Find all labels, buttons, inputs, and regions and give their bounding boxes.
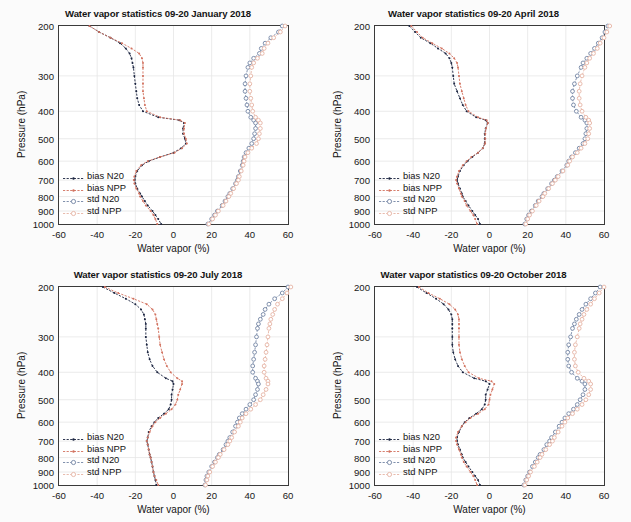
legend-swatch-icon — [379, 431, 400, 442]
y-tick-label: 400 — [38, 367, 54, 378]
series-std-npp — [523, 285, 606, 487]
legend-label: bias NPP — [87, 182, 126, 193]
y-tick-label: 300 — [38, 331, 54, 342]
series-std-n20 — [523, 24, 610, 226]
y-tick-label: 900 — [38, 206, 54, 217]
x-tick-label: -60 — [368, 229, 382, 240]
legend: bias N20bias NPPstd N20std NPP — [379, 170, 442, 216]
y-tick-label: 200 — [354, 21, 370, 32]
y-tick-label: 400 — [354, 367, 370, 378]
x-tick-label: 60 — [599, 490, 610, 501]
chart-panel: Water vapor statistics 09-20 October 201… — [316, 261, 631, 522]
x-tick-label: 60 — [599, 229, 610, 240]
legend-item: bias NPP — [63, 442, 126, 454]
legend-label: bias N20 — [403, 170, 440, 181]
chart-panel: Water vapor statistics 09-20 January 201… — [0, 0, 316, 261]
x-tick-label: 40 — [244, 229, 255, 240]
y-tick-label: 1000 — [33, 480, 54, 491]
x-axis-title: Water vapor (%) — [374, 243, 605, 254]
legend-item: bias N20 — [63, 431, 126, 443]
legend-label: std N20 — [87, 454, 119, 465]
x-tick-label: 20 — [206, 490, 217, 501]
series-std-npp — [207, 24, 287, 226]
legend-item: bias NPP — [63, 181, 126, 193]
x-tick-label: -20 — [128, 490, 142, 501]
legend-item: std N20 — [379, 193, 442, 205]
y-tick-label: 500 — [354, 133, 370, 144]
y-tick-label: 700 — [354, 175, 370, 186]
legend-swatch-icon — [63, 205, 84, 216]
legend: bias N20bias NPPstd N20std NPP — [63, 431, 126, 477]
y-tick-label: 700 — [38, 175, 54, 186]
x-tick-label: -40 — [406, 229, 420, 240]
legend-label: std NPP — [87, 205, 121, 216]
y-tick-label: 300 — [38, 70, 54, 81]
y-tick-label: 600 — [38, 156, 54, 167]
legend: bias N20bias NPPstd N20std NPP — [379, 431, 442, 477]
legend-item: bias NPP — [379, 442, 442, 454]
legend-label: std NPP — [403, 466, 437, 477]
legend-item: std NPP — [63, 204, 126, 216]
y-tick-label: 800 — [38, 452, 54, 463]
x-axis-title: Water vapor (%) — [58, 504, 289, 515]
legend-swatch-icon — [379, 443, 400, 454]
y-tick-label: 600 — [354, 156, 370, 167]
legend-swatch-icon — [379, 182, 400, 193]
legend-label: bias NPP — [87, 443, 126, 454]
legend-swatch-icon — [379, 454, 400, 465]
legend-item: bias N20 — [379, 431, 442, 443]
x-tick-label: -60 — [368, 490, 382, 501]
y-axis-title: Pressure (hPa) — [16, 352, 27, 419]
y-tick-label: 600 — [354, 417, 370, 428]
x-axis-title: Water vapor (%) — [374, 504, 605, 515]
y-tick-label: 300 — [354, 331, 370, 342]
x-tick-label: -60 — [52, 229, 66, 240]
legend-label: std NPP — [87, 466, 121, 477]
y-tick-label: 300 — [354, 70, 370, 81]
x-tick-label: -40 — [90, 490, 104, 501]
x-tick-label: 60 — [283, 490, 294, 501]
legend-label: bias N20 — [403, 431, 440, 442]
x-tick-label: -20 — [444, 490, 458, 501]
y-tick-label: 900 — [354, 467, 370, 478]
panel-title: Water vapor statistics 09-20 July 2018 — [0, 269, 316, 280]
water-vapor-statistics-figure: Water vapor statistics 09-20 January 201… — [0, 0, 631, 522]
legend-swatch-icon — [379, 193, 400, 204]
x-tick-label: 0 — [487, 490, 492, 501]
legend: bias N20bias NPPstd N20std NPP — [63, 170, 126, 216]
x-axis-title: Water vapor (%) — [58, 243, 289, 254]
legend-item: bias NPP — [379, 181, 442, 193]
legend-swatch-icon — [63, 170, 84, 181]
y-tick-label: 1000 — [349, 219, 370, 230]
legend-swatch-icon — [63, 431, 84, 442]
x-tick-label: 0 — [171, 229, 176, 240]
legend-swatch-icon — [63, 454, 84, 465]
x-tick-label: 40 — [560, 490, 571, 501]
y-tick-label: 500 — [354, 394, 370, 405]
y-tick-label: 800 — [38, 191, 54, 202]
y-tick-label: 700 — [354, 436, 370, 447]
y-tick-label: 200 — [38, 21, 54, 32]
y-tick-label: 900 — [38, 467, 54, 478]
x-tick-label: 40 — [560, 229, 571, 240]
x-tick-label: -20 — [128, 229, 142, 240]
legend-swatch-icon — [63, 182, 84, 193]
chart-panel: Water vapor statistics 09-20 April 20182… — [316, 0, 631, 261]
legend-item: bias N20 — [379, 170, 442, 182]
x-tick-label: -20 — [444, 229, 458, 240]
series-std-npp — [204, 285, 293, 487]
x-tick-label: 40 — [244, 490, 255, 501]
y-axis-title: Pressure (hPa) — [332, 91, 343, 158]
y-tick-label: 500 — [38, 133, 54, 144]
y-tick-label: 1000 — [349, 480, 370, 491]
y-tick-label: 400 — [354, 106, 370, 117]
legend-swatch-icon — [63, 193, 84, 204]
legend-item: std N20 — [63, 193, 126, 205]
legend-item: std NPP — [379, 465, 442, 477]
y-tick-label: 800 — [354, 191, 370, 202]
series-std-npp — [524, 24, 612, 226]
y-tick-label: 200 — [354, 282, 370, 293]
legend-label: std N20 — [87, 193, 119, 204]
legend-item: std NPP — [63, 465, 126, 477]
panel-title: Water vapor statistics 09-20 January 201… — [0, 8, 316, 19]
